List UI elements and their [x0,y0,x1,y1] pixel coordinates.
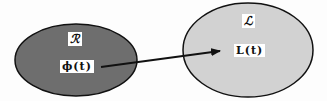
phi-of-t-label: ϕ(t) [60,60,94,73]
mapping-diagram: ℛ ϕ(t) ℒ L(t) [0,0,327,101]
diagram-shapes [0,0,327,101]
set-r-symbol: ℛ [68,32,82,46]
set-l-symbol: ℒ [242,14,255,28]
l-of-t-label: L(t) [234,44,265,57]
